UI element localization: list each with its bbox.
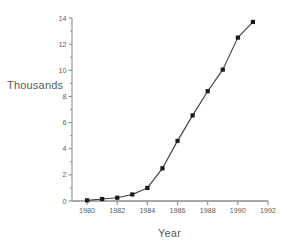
chart-container: Thousands Year 02468101214 1980198219841…	[0, 0, 287, 245]
data-series-line	[87, 22, 253, 200]
x-tick-label: 1990	[230, 206, 246, 215]
data-point-marker	[206, 89, 210, 93]
x-tick-label: 1992	[260, 206, 276, 215]
y-axis: 02468101214	[59, 14, 73, 206]
data-point-markers	[85, 20, 255, 203]
data-point-marker	[160, 166, 164, 170]
y-tick-label: 2	[63, 170, 67, 179]
data-point-marker	[221, 68, 225, 72]
x-tick-label: 1988	[200, 206, 216, 215]
x-tick-label: 1986	[170, 206, 186, 215]
data-point-marker	[130, 192, 134, 196]
y-tick-label: 4	[63, 144, 67, 153]
y-tick-label: 12	[59, 40, 67, 49]
x-tick-label: 1984	[139, 206, 155, 215]
x-axis: 1980198219841986198819901992	[72, 201, 276, 215]
line-chart-plot: 02468101214 1980198219841986198819901992	[0, 0, 287, 245]
x-tick-label: 1980	[79, 206, 95, 215]
data-point-marker	[115, 196, 119, 200]
data-point-marker	[175, 139, 179, 143]
data-point-marker	[191, 113, 195, 117]
data-point-marker	[251, 20, 255, 24]
y-tick-label: 0	[63, 197, 67, 206]
y-tick-label: 6	[63, 118, 67, 127]
y-tick-label: 10	[59, 66, 67, 75]
data-point-marker	[236, 36, 240, 40]
y-tick-label: 8	[63, 92, 67, 101]
y-tick-label: 14	[59, 14, 67, 23]
data-point-marker	[100, 197, 104, 201]
data-point-marker	[85, 198, 89, 202]
data-point-marker	[145, 186, 149, 190]
x-tick-label: 1982	[109, 206, 125, 215]
